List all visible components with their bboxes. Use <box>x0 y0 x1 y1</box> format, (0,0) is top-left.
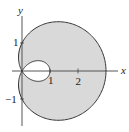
y-tick-label-1: 1 <box>13 36 19 48</box>
x-tick-label-1: 1 <box>48 74 54 86</box>
x-tick-label-2: 2 <box>76 75 82 87</box>
y-axis-label: y <box>17 4 23 16</box>
polar-plot: x y 1 2 1 −1 <box>0 0 129 132</box>
y-tick-label-minus-1: −1 <box>5 93 17 105</box>
x-axis-label: x <box>120 64 126 76</box>
